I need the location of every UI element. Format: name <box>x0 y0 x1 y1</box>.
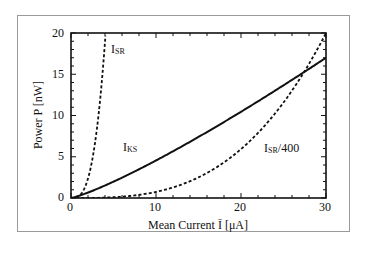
x-tick-0: 0 <box>67 200 73 215</box>
x-tick-30: 30 <box>319 200 331 215</box>
x-tick-20: 20 <box>234 200 246 215</box>
y-tick-20: 20 <box>52 26 64 41</box>
y-tick-10: 10 <box>52 108 64 123</box>
y-tick-5: 5 <box>58 149 64 164</box>
axes-box <box>71 33 326 198</box>
series-i-sr-400 <box>71 33 326 198</box>
y-axis-label: Power P [nW] <box>31 81 46 149</box>
series-i-sr <box>71 36 105 198</box>
x-tick-10: 10 <box>149 200 161 215</box>
y-tick-15: 15 <box>52 67 64 82</box>
y-tick-0: 0 <box>58 190 64 205</box>
label-iks: IKS <box>123 140 137 155</box>
x-axis-label: Mean Current Ī [μA] <box>148 218 248 233</box>
label-isr-400: ISR/400 <box>264 141 299 156</box>
label-isr: ISR <box>111 42 125 57</box>
